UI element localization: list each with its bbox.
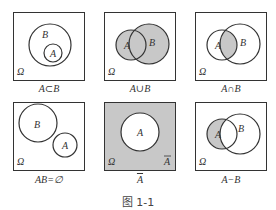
figure-caption: 图 1-1 bbox=[0, 193, 276, 209]
omega-label: Ω bbox=[199, 156, 206, 167]
venn-difference: A B Ω bbox=[195, 102, 267, 171]
omega-label: Ω bbox=[108, 156, 115, 167]
panel-union: A B Ω bbox=[104, 12, 176, 81]
set-a-label: A bbox=[214, 129, 222, 140]
panel-label-intersection: A∩B bbox=[195, 83, 267, 94]
venn-intersection: A B Ω bbox=[195, 12, 267, 81]
set-b-label: B bbox=[42, 29, 48, 40]
set-b-label: B bbox=[34, 119, 40, 130]
set-a-label: A bbox=[49, 48, 57, 59]
omega-label: Ω bbox=[199, 66, 206, 77]
complement-label-text: A bbox=[137, 174, 143, 185]
panel-disjoint: B A Ω bbox=[13, 102, 85, 171]
set-b-label: B bbox=[240, 37, 246, 48]
panel-complement: A Ω A bbox=[104, 102, 176, 171]
panel-label-union: A∪B bbox=[104, 83, 176, 94]
venn-complement: A Ω A bbox=[104, 102, 176, 171]
panel-label-complement: A bbox=[104, 174, 176, 185]
omega-label: Ω bbox=[17, 66, 24, 77]
set-a-label: A bbox=[214, 40, 222, 51]
panel-label-subset: A⊂B bbox=[13, 83, 85, 94]
set-a-label: A bbox=[123, 40, 131, 51]
set-b-label: B bbox=[149, 37, 155, 48]
venn-disjoint: B A Ω bbox=[13, 102, 85, 171]
set-a-label: A bbox=[61, 140, 69, 151]
omega-label: Ω bbox=[17, 156, 24, 167]
set-b-label: B bbox=[238, 123, 244, 134]
panel-label-disjoint: AB=∅ bbox=[13, 174, 85, 185]
venn-subset: B A Ω bbox=[13, 12, 85, 81]
venn-union: A B Ω bbox=[104, 12, 176, 81]
panel-label-difference: A−B bbox=[195, 174, 267, 185]
omega-label: Ω bbox=[108, 66, 115, 77]
panel-intersection: A B Ω bbox=[195, 12, 267, 81]
panel-subset: B A Ω bbox=[13, 12, 85, 81]
complement-label: A bbox=[163, 156, 171, 167]
set-a-label: A bbox=[136, 127, 144, 138]
panel-difference: A B Ω bbox=[195, 102, 267, 171]
